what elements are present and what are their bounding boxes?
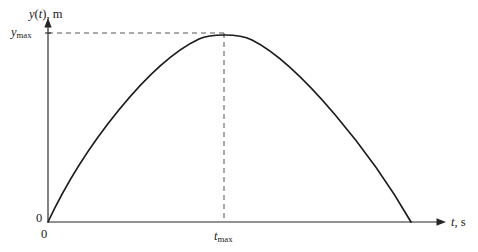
x-axis-caption-unit: s [461,215,466,229]
ymax-tick-label: ymax [11,26,32,39]
trajectory-curve [48,35,411,222]
plot-canvas [0,0,478,252]
y-axis-origin-label: 0 [36,212,42,225]
figure-root: y(t), m t, s ymax tmax 0 0 [0,0,478,252]
tmax-subscript: max [217,234,232,244]
tmax-tick-label: tmax [214,230,233,243]
y-axis-caption-argument: (t) [35,7,47,21]
y-axis-caption: y(t), m [29,8,62,21]
y-axis-caption-unit: m [53,7,63,21]
x-axis-origin-label: 0 [41,228,47,241]
x-axis-caption: t, s [451,216,466,229]
x-axis-arrow-icon [437,218,447,225]
ymax-subscript: max [17,30,32,40]
